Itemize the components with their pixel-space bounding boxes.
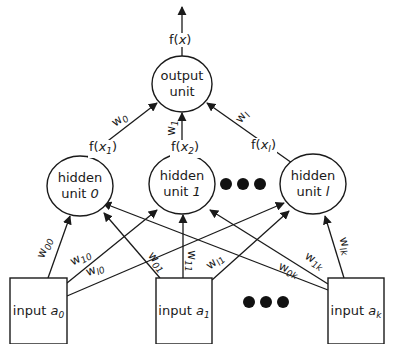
edge-ak-h1 [210, 210, 328, 284]
input-ellipsis-dots [243, 296, 289, 308]
edge-a0-h1 [67, 210, 157, 283]
hidden-unit-1-label: hidden unit 1 [149, 168, 215, 200]
input-ak-label: input ak [328, 303, 384, 320]
output-activation-label: f(x) [168, 33, 192, 47]
weight-label-w1: w1 [164, 120, 180, 136]
input-a1-label: input a1 [156, 303, 212, 320]
output-unit-label: output unit [152, 68, 212, 100]
input-a0-label: input a0 [10, 303, 67, 320]
weight-label-w11: w11 [183, 250, 199, 271]
activation-label-xl: f(xl) [250, 138, 277, 156]
hidden-unit-0-label: hidden unit 0 [47, 170, 113, 202]
hidden-unit-l-label: hidden unit l [280, 168, 346, 200]
activation-label-x1: f(x1) [88, 140, 118, 158]
hidden-ellipsis-dots [220, 178, 266, 190]
activation-label-x2: f(x2) [170, 140, 200, 158]
